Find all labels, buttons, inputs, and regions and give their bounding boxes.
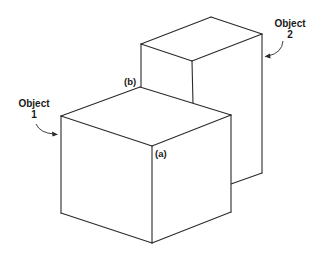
vertex-label-a: (a) xyxy=(155,149,167,159)
object-2-label: Object 2 xyxy=(271,18,309,40)
diagram-canvas: Object 1 Object 2 (b) (a) xyxy=(0,0,321,254)
object-1-label: Object 1 xyxy=(15,98,53,120)
object-1-leader-arrow-icon xyxy=(36,124,58,137)
object-2-label-line1: Object xyxy=(271,18,309,29)
vertex-label-b: (b) xyxy=(124,77,136,87)
object-1-block xyxy=(61,87,231,243)
object-2-leader-arrow-icon xyxy=(265,41,284,59)
object-2-label-line2: 2 xyxy=(271,29,309,40)
object-1-label-line1: Object xyxy=(15,98,53,109)
object-1-label-line2: 1 xyxy=(15,109,53,120)
